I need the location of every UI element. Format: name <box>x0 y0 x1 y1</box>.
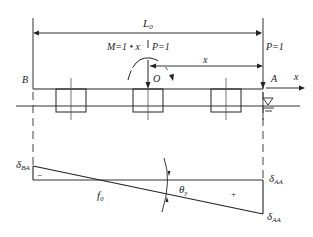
angle-arc <box>162 158 168 212</box>
dist-arrow-right-icon <box>257 64 263 69</box>
zero-point-label: f0 <box>97 189 104 203</box>
center-load-arrow-icon <box>146 82 151 89</box>
dim-arrow-left-icon <box>33 31 39 36</box>
x-axis-label: x <box>293 71 299 82</box>
negative-sign: − <box>37 170 42 180</box>
angle-arrow-up-icon <box>168 171 171 176</box>
right-end-label: A <box>270 73 278 84</box>
origin-label: O <box>153 73 160 84</box>
influence-line <box>33 166 263 214</box>
left-value-label: δBA <box>16 158 30 172</box>
positive-sign: + <box>231 189 236 199</box>
slope-label: θy <box>179 183 188 197</box>
water-level-icon <box>263 98 274 111</box>
span-label: L0 <box>142 17 153 31</box>
right-top-value-label: δAA <box>269 172 283 186</box>
moment-arc <box>128 58 172 80</box>
x-axis-arrow-icon <box>299 86 305 91</box>
center-load-label: P=1 <box>151 41 170 52</box>
right-bottom-value-label: δAA <box>267 210 281 224</box>
moment-arrow-icon <box>169 74 174 81</box>
right-load-label: P=1 <box>265 41 284 52</box>
moment-label: M=1 • x <box>106 41 141 52</box>
influence-diagram: L0 x P=1 M=1 • x O P=1 B A x δB <box>0 0 313 237</box>
dist-arrow-left-icon <box>150 64 156 69</box>
distance-label: x <box>202 54 208 65</box>
right-load-arrow-icon <box>261 82 266 89</box>
left-end-label: B <box>22 74 28 85</box>
